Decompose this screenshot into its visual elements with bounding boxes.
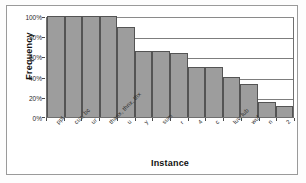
y-tick-mark (42, 98, 45, 99)
x-tick-mark (294, 118, 295, 121)
bar-series (47, 18, 293, 117)
x-tick-label: ur (90, 117, 98, 125)
y-tick-mark (42, 37, 45, 38)
bar-cuz-bc (65, 16, 83, 117)
bar-4 (188, 67, 206, 118)
x-tick-mark (259, 118, 260, 121)
x-tick-label: n (267, 119, 274, 126)
y-tick-mark (42, 57, 45, 58)
bar-sum (152, 51, 170, 117)
y-tick-mark (42, 17, 45, 18)
x-tick-mark (170, 118, 171, 121)
x-tick-label: y (143, 119, 149, 125)
bar-c (205, 67, 223, 118)
x-tick-label: c (214, 119, 220, 125)
x-tick-label: 4 (197, 119, 204, 126)
y-axis-title: Frequency (24, 11, 34, 101)
x-tick-mark (241, 118, 242, 121)
y-tick-mark (42, 117, 45, 118)
bar-r (170, 53, 188, 117)
x-tick-mark (46, 118, 47, 121)
x-tick-mark (205, 118, 206, 121)
x-tick-label: 2 (285, 119, 292, 126)
x-tick-mark (135, 118, 136, 121)
y-tick-mark (42, 78, 45, 79)
x-tick-mark (99, 118, 100, 121)
bar-2 (276, 106, 294, 117)
plot-area (46, 17, 294, 118)
bar-n (258, 102, 276, 117)
bar-ur (82, 16, 100, 117)
y-tick-label: 0% (8, 115, 42, 122)
x-tick-mark (276, 118, 277, 121)
x-tick-label: u (126, 119, 133, 126)
x-tick-mark (223, 118, 224, 121)
x-tick-mark (152, 118, 153, 121)
figure: 100% 80% 60% 40% 20% 0% Frequency (0, 0, 306, 183)
x-tick-mark (81, 118, 82, 121)
x-tick-mark (64, 118, 65, 121)
bar-y (135, 51, 153, 117)
bar-luv-lub (223, 77, 241, 117)
x-tick-label: r (179, 120, 185, 126)
x-axis-title: Instance (46, 158, 294, 168)
x-tick-mark (117, 118, 118, 121)
bar-thanx-thnx-thx (100, 16, 118, 117)
x-tick-mark (188, 118, 189, 121)
bar-ppl (47, 16, 65, 117)
x-axis: pplcuz, bcurthanx, thnx, thxuysumr4cluv,… (46, 119, 294, 157)
y-axis: 100% 80% 60% 40% 20% 0% Frequency (6, 17, 42, 118)
